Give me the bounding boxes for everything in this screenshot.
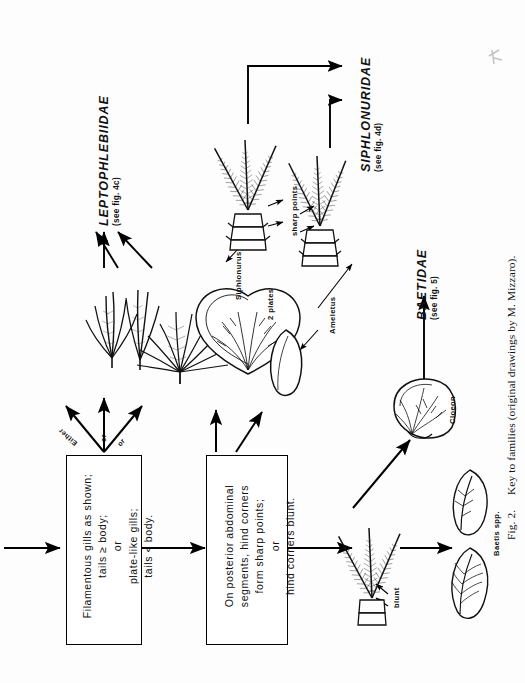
- decision-box-gills-text: Filamentous gills as shown; tails ≥ body…: [80, 456, 156, 636]
- family-label-siphlonuridae: SIPHLONURIDAE (see fig. 4d): [358, 57, 385, 172]
- scan-artifact: [489, 50, 502, 64]
- drawing-baetid-tails-blunt: [334, 528, 407, 625]
- box-abdomen-line-2: segments, hind corners: [237, 456, 252, 636]
- decision-box-abdomen-text: On posterior abdominal segments, hind co…: [222, 456, 298, 636]
- family-name-siphlonuridae: SIPHLONURIDAE: [358, 57, 374, 172]
- annotation-blunt: blunt: [392, 587, 401, 608]
- flow-arrow-box2-siphlonurus: [216, 410, 262, 452]
- figure-page: Filamentous gills as shown; tails ≥ body…: [0, 0, 525, 683]
- family-name-leptophlebiidae: LEPTOPHLEBIIDAE: [96, 95, 112, 226]
- branch-label-or-1: or: [100, 434, 109, 442]
- figure-caption-text: Key to families (original drawings by M.…: [505, 256, 517, 495]
- box-abdomen-line-3: form sharp points;: [252, 456, 267, 636]
- family-reference-baetidae: (see fig. 5): [430, 249, 441, 320]
- annotation-two-plates: 2 plates: [266, 289, 275, 320]
- drawing-leptophlebiid-gill-2: [126, 290, 159, 370]
- flow-elbow-siphlonuridae-2: [330, 100, 342, 148]
- family-label-baetidae: BAETIDAE (see fig. 5): [414, 249, 441, 320]
- drawing-baetis-gill-2: [453, 470, 487, 535]
- drawing-leptophlebiid-gill-1: [86, 292, 137, 368]
- annotation-ameletus: Ameletus: [328, 297, 337, 334]
- family-reference-siphlonuridae: (see fig. 4d): [374, 57, 385, 172]
- flow-arrow-box2-cloeon: [353, 440, 410, 508]
- drawing-baetis-gill-1: [452, 548, 488, 618]
- flow-elbow-siphlonuridae-1: [248, 66, 342, 124]
- box-gills-line-4: plate-like gills;: [126, 456, 141, 636]
- box-gills-line-3: or: [110, 456, 125, 636]
- annotation-cloeon: Cloeon: [448, 396, 457, 424]
- flow-fan-leptophlebiidae: [96, 232, 152, 268]
- drawing-siphlonurid-tails-left: [210, 140, 283, 250]
- family-label-leptophlebiidae: LEPTOPHLEBIIDAE (see fig. 4c): [96, 95, 123, 226]
- box-gills-line-2: tails ≥ body;: [95, 456, 110, 636]
- figure-caption: Fig. 2. Key to families (original drawin…: [504, 256, 518, 540]
- box-abdomen-line-1: On posterior abdominal: [222, 456, 237, 636]
- annotation-sharp-points: sharp points: [290, 186, 299, 236]
- annotation-siphlonurus: Siphlonurus: [234, 251, 243, 300]
- figure-caption-number: Fig. 2.: [505, 510, 517, 540]
- family-reference-leptophlebiidae: (see fig. 4c): [112, 95, 123, 226]
- box-gills-line-1: Filamentous gills as shown;: [80, 456, 95, 636]
- box-abdomen-line-4: or: [268, 456, 283, 636]
- annotation-baetis-spp: Baetis spp.: [492, 511, 501, 556]
- flow-fan-box1: [66, 398, 142, 452]
- box-abdomen-line-5: hind corners blunt.: [283, 456, 298, 636]
- drawing-cloeon-gill: [394, 379, 455, 438]
- family-name-baetidae: BAETIDAE: [414, 249, 430, 320]
- box-gills-line-5: tails < body.: [141, 456, 156, 636]
- pointer-ameletus: [300, 264, 352, 350]
